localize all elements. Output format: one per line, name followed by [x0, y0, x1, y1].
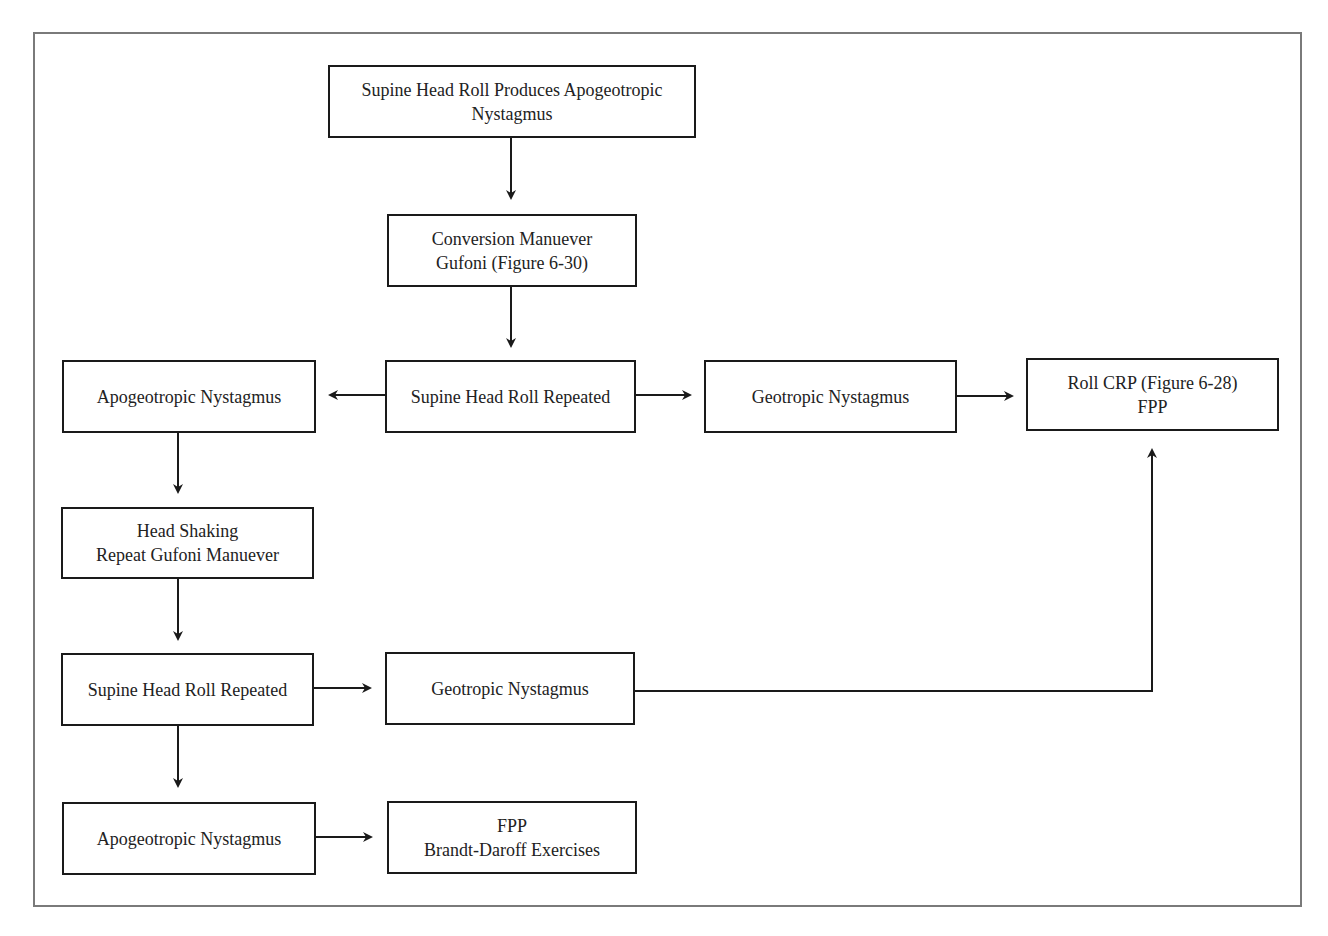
node-supine-head-roll-repeated-1: Supine Head Roll Repeated	[385, 360, 636, 433]
node-label-line2: Brandt-Daroff Exercises	[424, 838, 600, 862]
arrow-geo-2-to-roll-crp	[635, 450, 1152, 691]
node-label-line1: Head Shaking	[137, 519, 238, 543]
node-label-line2: Nystagmus	[472, 102, 553, 126]
node-label-line1: FPP	[497, 814, 527, 838]
node-apogeotropic-nystagmus-2: Apogeotropic Nystagmus	[62, 802, 316, 875]
node-label-line1: Roll CRP (Figure 6-28)	[1068, 371, 1238, 395]
node-apogeotropic-nystagmus-1: Apogeotropic Nystagmus	[62, 360, 316, 433]
node-label-line2: Gufoni (Figure 6-30)	[436, 251, 588, 275]
node-fpp-brandt-daroff: FPP Brandt-Daroff Exercises	[387, 801, 637, 874]
node-label-line1: Apogeotropic Nystagmus	[97, 827, 281, 851]
node-geotropic-nystagmus-2: Geotropic Nystagmus	[385, 652, 635, 725]
node-label-line2: Repeat Gufoni Manuever	[96, 543, 279, 567]
node-geotropic-nystagmus-1: Geotropic Nystagmus	[704, 360, 957, 433]
connector-layer	[0, 0, 1328, 936]
node-label-line1: Supine Head Roll Repeated	[88, 678, 287, 702]
node-label-line1: Apogeotropic Nystagmus	[97, 385, 281, 409]
node-head-shaking-repeat-gufoni: Head Shaking Repeat Gufoni Manuever	[61, 507, 314, 579]
node-supine-head-roll-repeated-2: Supine Head Roll Repeated	[61, 653, 314, 726]
node-label-line1: Geotropic Nystagmus	[752, 385, 909, 409]
node-label-line1: Supine Head Roll Produces Apogeotropic	[362, 78, 663, 102]
node-label-line1: Conversion Manuever	[432, 227, 592, 251]
node-label-line2: FPP	[1137, 395, 1167, 419]
node-start-supine-head-roll: Supine Head Roll Produces Apogeotropic N…	[328, 65, 696, 138]
node-label-line1: Supine Head Roll Repeated	[411, 385, 610, 409]
node-conversion-maneuver-gufoni: Conversion Manuever Gufoni (Figure 6-30)	[387, 214, 637, 287]
node-roll-crp-fpp: Roll CRP (Figure 6-28) FPP	[1026, 358, 1279, 431]
node-label-line1: Geotropic Nystagmus	[431, 677, 588, 701]
